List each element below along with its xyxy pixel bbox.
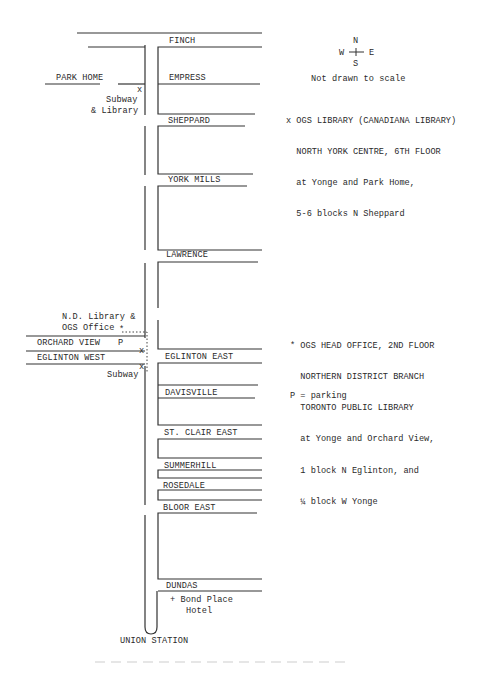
street-label-st-clair-east: ST. CLAIR EAST [164,428,238,438]
nd-library-label-1: N.D. Library & [62,312,136,322]
legend-star-line-1: * OGS HEAD OFFICE, 2ND FLOOR [290,341,434,351]
legend-parking-note: P = parking [290,391,347,401]
street-label-rosedale: ROSEDALE [163,481,205,491]
street-label-orchard-view: ORCHARD VIEW [37,338,100,348]
legend-x-note: x OGS LIBRARY (CANADIANA LIBRARY) NORTH … [286,95,456,230]
scale-note: Not drawn to scale [311,74,406,84]
subway-x-marker: x [139,362,144,372]
legend-star-line-5: 1 block N Eglinton, and [290,466,434,476]
legend-star-line-4: at Yonge and Orchard View, [290,434,434,444]
eglinton-x-marker: x [139,346,144,356]
legend-star-line-6: ¼ block W Yonge [290,497,434,507]
street-label-sheppard: SHEPPARD [168,116,210,126]
street-label-lawrence: LAWRENCE [166,250,208,260]
legend-x-line-2: NORTH YORK CENTRE, 6TH FLOOR [286,147,456,157]
bleed-through-line [95,661,345,663]
street-label-empress: EMPRESS [169,73,206,83]
street-label-park-home: PARK HOME [56,73,103,83]
street-label-bloor-east: BLOOR EAST [163,503,216,513]
compass-south: S [353,59,358,69]
legend-star-line-2: NORTHERN DISTRICT BRANCH [290,372,434,382]
street-label-dundas: DUNDAS [166,581,198,591]
street-label-york-mills: YORK MILLS [168,175,221,185]
bond-place-label-2: Hotel [186,606,212,616]
subway-library-label-1: Subway [106,95,138,105]
legend-x-line-1: x OGS LIBRARY (CANADIANA LIBRARY) [286,116,456,126]
parking-marker: P [118,338,123,348]
library-x-marker: x [137,85,142,95]
subway-library-label-2: & Library [91,106,138,116]
subway-eglinton-label: Subway [107,370,139,380]
legend-star-line-3: TORONTO PUBLIC LIBRARY [290,403,434,413]
compass-north: N [353,36,358,46]
nd-library-label-2: OGS Office [62,323,115,333]
compass-west: W [339,48,344,58]
legend-x-line-3: at Yonge and Park Home, [286,178,456,188]
legend-star-note: * OGS HEAD OFFICE, 2ND FLOOR NORTHERN DI… [290,320,434,518]
street-label-finch: FINCH [169,36,195,46]
street-label-eglinton-east: EGLINTON EAST [165,352,233,362]
union-station-label: UNION STATION [120,636,188,646]
compass-east: E [369,48,374,58]
bond-place-label-1: + Bond Place [170,595,233,605]
street-label-eglinton-west: EGLINTON WEST [37,353,105,363]
legend-x-line-4: 5-6 blocks N Sheppard [286,209,456,219]
star-marker: * [119,325,124,335]
street-label-summerhill: SUMMERHILL [164,461,217,471]
street-label-davisville: DAVISVILLE [165,388,218,398]
